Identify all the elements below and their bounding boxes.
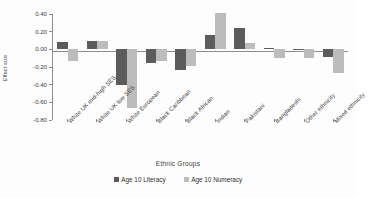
legend-label: Age 10 Literacy bbox=[121, 176, 165, 183]
bar-numeracy bbox=[68, 49, 78, 60]
legend-swatch-literacy bbox=[114, 177, 119, 182]
y-tick-mark bbox=[49, 49, 52, 50]
x-axis-title: Ethnic Groups bbox=[0, 160, 356, 167]
y-tick-label: 0.20 bbox=[2, 28, 52, 36]
legend-entry: Age 10 Numeracy bbox=[184, 176, 243, 183]
bar-literacy bbox=[323, 49, 333, 57]
bar-numeracy bbox=[97, 41, 107, 49]
chart-legend: Age 10 LiteracyAge 10 Numeracy bbox=[0, 176, 356, 183]
y-tick-label: 0.40 bbox=[2, 10, 52, 18]
y-tick-label: -0.60 bbox=[2, 98, 52, 106]
y-tick-label: 0.00 bbox=[2, 45, 52, 53]
bar-literacy bbox=[87, 41, 97, 49]
y-tick-mark bbox=[49, 102, 52, 103]
legend-swatch-numeracy bbox=[184, 177, 189, 182]
y-tick-label: -0.40 bbox=[2, 81, 52, 89]
bar-numeracy bbox=[215, 13, 225, 49]
y-tick-mark bbox=[49, 67, 52, 68]
y-tick-label: -0.80 bbox=[2, 116, 52, 124]
y-tick-mark bbox=[49, 84, 52, 85]
legend-label: Age 10 Numeracy bbox=[191, 176, 242, 183]
bar-group bbox=[57, 14, 79, 120]
x-axis-tick-labels: White UK mid-high SESWhite UK low SESWhi… bbox=[52, 120, 348, 178]
bar-literacy bbox=[205, 35, 215, 49]
bar-literacy bbox=[264, 48, 274, 49]
bar-literacy bbox=[293, 49, 303, 50]
bar-literacy bbox=[234, 28, 244, 49]
legend-entry: Age 10 Literacy bbox=[114, 176, 166, 183]
bar-numeracy bbox=[245, 43, 255, 49]
bar-literacy bbox=[57, 42, 67, 49]
y-tick-mark bbox=[49, 14, 52, 15]
y-tick-mark bbox=[49, 31, 52, 32]
y-tick-label: -0.20 bbox=[2, 63, 52, 71]
